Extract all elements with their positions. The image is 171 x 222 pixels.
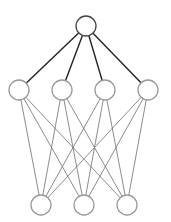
input-node-2: [117, 195, 137, 215]
edge-input-2-to-hidden-1: [62, 90, 127, 205]
edge-input-2-to-hidden-2: [105, 90, 127, 205]
edge-input-2-to-hidden-0: [19, 90, 127, 205]
edge-input-2-to-hidden-3: [127, 90, 148, 205]
edge-input-0-to-hidden-0: [19, 90, 41, 205]
hidden-node-3: [138, 80, 158, 100]
input-node-1: [74, 195, 94, 215]
input-node-0: [31, 195, 51, 215]
edge-hidden-0-to-output-0: [19, 26, 86, 90]
hidden-node-1: [52, 80, 72, 100]
neural-network-diagram: [0, 0, 171, 222]
hidden-node-2: [95, 80, 115, 100]
edge-input-1-to-hidden-0: [19, 90, 84, 205]
output-node-0: [76, 16, 96, 36]
hidden-node-0: [9, 80, 29, 100]
